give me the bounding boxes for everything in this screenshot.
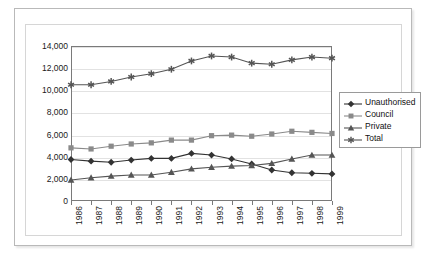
legend-label: Private xyxy=(364,122,391,131)
legend-item-private[interactable]: Private xyxy=(342,120,416,132)
legend-key-diamond-icon xyxy=(342,96,364,108)
legend-item-council[interactable]: Council xyxy=(342,108,416,120)
legend-key-triangle-icon xyxy=(342,120,364,132)
legend-label: Council xyxy=(364,110,393,119)
legend-key-square-icon xyxy=(342,108,364,120)
legend-label: Total xyxy=(364,134,383,143)
legend-item-total[interactable]: Total xyxy=(342,132,416,144)
legend-item-unauthorised[interactable]: Unauthorised xyxy=(342,96,416,108)
legend-key-asterisk-icon xyxy=(342,132,364,144)
legend-label: Unauthorised xyxy=(364,98,416,107)
chart-figure: 02,0004,0006,0008,00010,00012,00014,000 … xyxy=(0,0,426,262)
chart-legend: UnauthorisedCouncilPrivateTotal xyxy=(339,92,421,148)
